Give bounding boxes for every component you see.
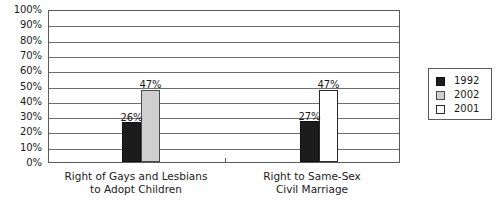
category-label-marriage: Right to Same-Sex Civil Marriage [224,170,400,196]
gridline [49,57,399,58]
data-label-1992-marriage: 27% [287,111,332,122]
gridline [49,118,399,119]
y-axis-tick: 30% [0,112,42,122]
category-label-line: to Adopt Children [48,183,224,196]
category-label-line: Right of Gays and Lesbians [48,170,224,183]
category-divider-tick [225,158,226,162]
gridline [49,133,399,134]
data-label-2002-adoption: 47% [128,79,173,90]
bar-1992-adoption [122,122,141,162]
gridline [49,103,399,104]
legend-item-2001: 2001 [429,102,491,116]
y-axis-tick: 70% [0,51,42,61]
plot-area: 26% 47% 27% 47% [48,10,400,163]
y-axis-tick: 0% [0,158,42,168]
y-axis-tick: 100% [0,5,42,15]
gridline [49,72,399,73]
y-axis-tick: 60% [0,66,42,76]
y-axis-tick: 90% [0,20,42,30]
bar-1992-marriage [300,121,319,162]
y-axis: 100% 90% 80% 70% 60% 50% 40% 30% 20% 10%… [0,10,42,163]
legend-label: 2001 [454,104,479,114]
legend-swatch-icon [436,91,445,100]
legend-label: 1992 [454,76,479,86]
bar-2001-marriage [319,90,338,162]
y-axis-tick: 20% [0,127,42,137]
bar-chart: 100% 90% 80% 70% 60% 50% 40% 30% 20% 10%… [0,0,498,207]
category-label-line: Civil Marriage [224,183,400,196]
y-axis-tick: 50% [0,82,42,92]
bar-2002-adoption [141,90,160,162]
gridline [49,149,399,150]
y-axis-tick: 10% [0,143,42,153]
gridline [49,42,399,43]
category-label-adoption: Right of Gays and Lesbians to Adopt Chil… [48,170,224,196]
gridline [49,26,399,27]
data-label-1992-adoption: 26% [109,112,154,123]
legend-label: 2002 [454,90,479,100]
legend-swatch-icon [436,105,445,114]
data-label-2001-marriage: 47% [306,79,351,90]
y-axis-tick: 40% [0,97,42,107]
legend: 1992 2002 2001 [428,68,492,120]
category-label-line: Right to Same-Sex [224,170,400,183]
legend-item-1992: 1992 [429,74,491,88]
y-axis-tick: 80% [0,36,42,46]
legend-swatch-icon [436,77,445,86]
legend-item-2002: 2002 [429,88,491,102]
